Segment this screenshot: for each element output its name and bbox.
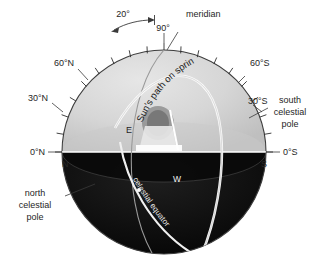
leader-60s <box>238 76 245 83</box>
label-60n: 60°N <box>54 58 74 68</box>
label-north-cardinal: N <box>62 159 69 169</box>
celestial-sphere-diagram: 20° 90° meridian 60°N 30°N 0°N 60°S 30°S… <box>0 0 330 270</box>
observer-body <box>140 126 176 146</box>
leader-60n <box>78 69 88 80</box>
north-pole-line2: celestial <box>19 200 52 210</box>
label-west-cardinal: W <box>173 174 181 184</box>
label-0n: 0°N <box>30 147 45 157</box>
angle-arrow-left <box>111 28 119 34</box>
angle-arrow-right <box>148 17 155 23</box>
leader-30n <box>52 103 63 112</box>
meridian-label: meridian <box>186 9 221 19</box>
south-pole-line1: south <box>279 95 301 105</box>
angle-span-arc <box>114 20 152 30</box>
label-south-cardinal: S <box>261 159 267 169</box>
south-pole-line2: celestial <box>274 107 307 117</box>
label-30s: 30°S <box>248 96 268 106</box>
north-pole-line3: pole <box>26 212 43 222</box>
leader-meridian <box>167 32 178 50</box>
south-pole-line3: pole <box>281 119 298 129</box>
meridian-angle-label: 90° <box>156 23 170 33</box>
label-0s: 0°S <box>283 147 298 157</box>
angle-span-label: 20° <box>116 9 130 19</box>
diagram-canvas: 20° 90° meridian 60°N 30°N 0°N 60°S 30°S… <box>0 0 330 270</box>
label-30n: 30°N <box>28 93 48 103</box>
label-east-cardinal: E <box>126 125 132 135</box>
observer-base <box>136 145 182 151</box>
label-60s: 60°S <box>250 58 270 68</box>
north-pole-line1: north <box>25 188 46 198</box>
